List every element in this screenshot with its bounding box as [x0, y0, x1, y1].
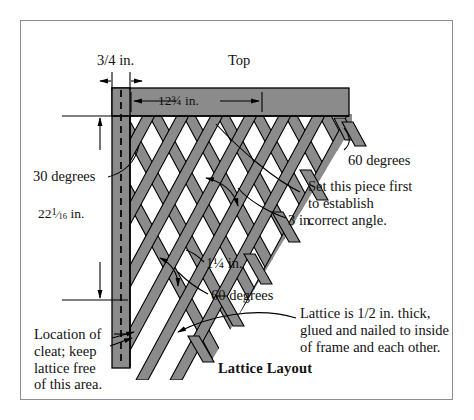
label-slat-spacing: 3 in. [288, 212, 314, 229]
label-60-degrees-lattice: 60 degrees [211, 287, 273, 304]
note-set-piece: Set this piece firstto establishcorrect … [308, 178, 412, 228]
label-30-degrees: 30 degrees [33, 168, 95, 185]
frame-height-unit: in. [67, 206, 84, 221]
note-cleat-line4: of this area. [34, 376, 102, 392]
frame-top-rail [112, 88, 349, 116]
dimension-stile-width [100, 72, 142, 90]
label-top: Top [228, 52, 250, 69]
note-cleat-line1: Location of [34, 326, 101, 342]
label-lattice-span: 12¾ in. [158, 93, 199, 109]
frame-height-fraction: 1⁄16 [52, 206, 68, 221]
note-lattice-line3: of frame and each other. [300, 339, 441, 355]
frac-den: 16 [59, 211, 68, 221]
figure-canvas: 3/4 in. Top 12¾ in. 30 degrees 221⁄16 in… [0, 0, 474, 420]
frame-height-whole: 22 [38, 206, 52, 221]
note-cleat-line2: cleat; keep [34, 343, 96, 359]
note-set-piece-line2: to establish [308, 195, 374, 211]
note-set-piece-line1: Set this piece first [308, 178, 412, 194]
note-cleat: Location ofcleat; keeplattice freeof thi… [34, 326, 102, 393]
note-set-piece-line3: correct angle. [308, 212, 387, 228]
label-60-degrees-top: 60 degrees [348, 152, 410, 169]
note-cleat-line3: lattice free [34, 360, 96, 376]
label-slat-width: 1¼ in. [206, 255, 243, 272]
note-lattice: Lattice is 1/2 in. thick,glued and naile… [300, 305, 449, 355]
figure-title: Lattice Layout [218, 360, 312, 377]
label-stile-width: 3/4 in. [97, 52, 134, 69]
label-frame-height: 221⁄16 in. [38, 206, 84, 222]
note-lattice-line2: glued and nailed to inside [300, 322, 449, 338]
note-lattice-line1: Lattice is 1/2 in. thick, [300, 305, 430, 321]
